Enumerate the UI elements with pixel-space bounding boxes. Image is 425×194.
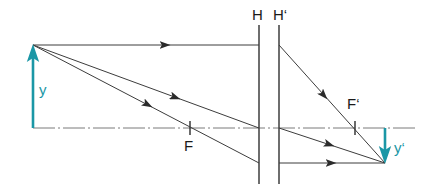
- ray-diagram-canvas: [0, 0, 425, 194]
- label-image-height-y-prime: y‘: [394, 140, 405, 155]
- label-principal-plane-H: H: [252, 7, 263, 22]
- label-focal-point-F: F: [184, 138, 193, 153]
- label-principal-plane-H-prime: H‘: [273, 7, 287, 22]
- object-arrow-y: [27, 44, 39, 128]
- label-object-height-y: y: [39, 82, 47, 97]
- ray-focal-incident: [33, 45, 259, 163]
- label-focal-point-F-prime: F‘: [347, 96, 360, 111]
- ray-central-incident: [33, 45, 259, 128]
- optics-ray-diagram: H H‘ F F‘ y y‘: [0, 0, 425, 194]
